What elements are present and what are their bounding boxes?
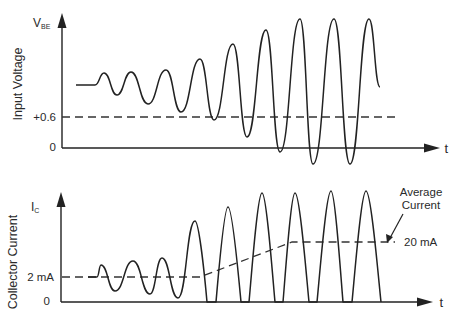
top-y-symbol: VBE	[33, 16, 51, 30]
bottom-y-axis-title: Collector Current	[6, 214, 20, 309]
bottom-y-axis-arrow-icon	[57, 192, 66, 207]
bottom-zero-tick-label: 0	[44, 295, 50, 307]
bottom-y-symbol: IC	[31, 200, 39, 214]
transistor-waveform-diagram: t VBE Input Voltage +0.6 0 t IC Collecto…	[0, 0, 452, 319]
top-zero-tick-label: 0	[50, 141, 56, 153]
top-x-axis-arrow-icon	[424, 144, 440, 153]
average-current-dashed-line	[62, 242, 395, 277]
average-current-value: 20 mA	[404, 236, 438, 248]
bottom-panel: t IC Collector Current 2 mA 0 Average Cu…	[6, 186, 443, 310]
quiescent-tick-label: 2 mA	[27, 271, 54, 283]
annotation-line2: Current	[402, 199, 441, 211]
top-panel: t VBE Input Voltage +0.6 0	[11, 13, 448, 164]
annotation-pointer-line	[390, 214, 403, 238]
top-y-axis-arrow-icon	[58, 13, 67, 28]
top-x-axis-label: t	[444, 141, 448, 156]
bottom-x-axis-label: t	[439, 295, 443, 310]
bottom-x-axis-arrow-icon	[417, 298, 433, 307]
input-voltage-waveform	[76, 19, 380, 164]
top-y-axis-title: Input Voltage	[11, 47, 25, 120]
collector-current-waveform	[88, 191, 381, 302]
annotation-line1: Average	[400, 186, 443, 198]
threshold-tick-label: +0.6	[33, 111, 56, 123]
